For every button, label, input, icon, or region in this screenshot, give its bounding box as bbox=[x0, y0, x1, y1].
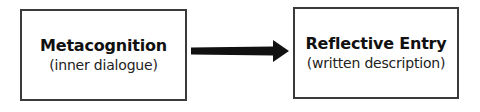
reflective-entry-subtitle: (written description) bbox=[307, 54, 446, 72]
reflective-entry-title: Reflective Entry bbox=[305, 34, 446, 54]
metacognition-title: Metacognition bbox=[40, 36, 167, 56]
metacognition-node: Metacognition (inner dialogue) bbox=[20, 9, 187, 101]
reflective-entry-node: Reflective Entry (written description) bbox=[293, 7, 459, 99]
metacognition-subtitle: (inner dialogue) bbox=[49, 56, 157, 74]
right-arrow-icon bbox=[190, 40, 290, 62]
